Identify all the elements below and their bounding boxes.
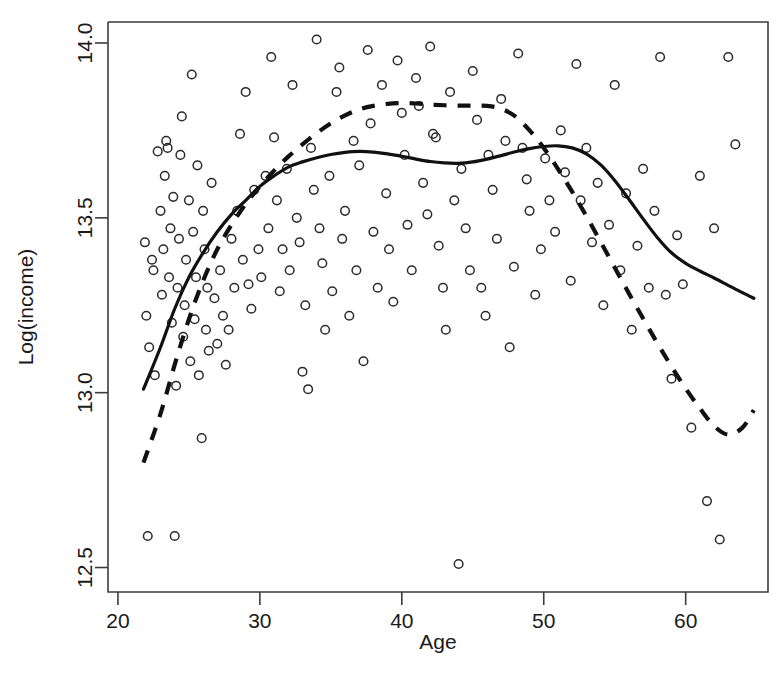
x-tick-label: 60 [674,609,697,632]
y-tick-label: 13.0 [73,372,96,413]
y-tick-label: 13.5 [73,197,96,238]
x-tick-label: 40 [390,609,413,632]
y-tick-label: 12.5 [73,547,96,588]
figure-background [0,0,783,674]
scatter-plot-figure: 12.513.013.514.0 2030405060 Age Log(inco… [0,0,783,674]
x-tick-label: 20 [106,609,129,632]
y-tick-label: 14.0 [73,23,96,64]
y-axis-title: Log(income) [14,249,37,366]
plot-canvas: 12.513.013.514.0 2030405060 Age Log(inco… [0,0,783,674]
x-tick-label: 50 [532,609,555,632]
x-axis-title: Age [419,630,456,653]
x-tick-label: 30 [248,609,271,632]
